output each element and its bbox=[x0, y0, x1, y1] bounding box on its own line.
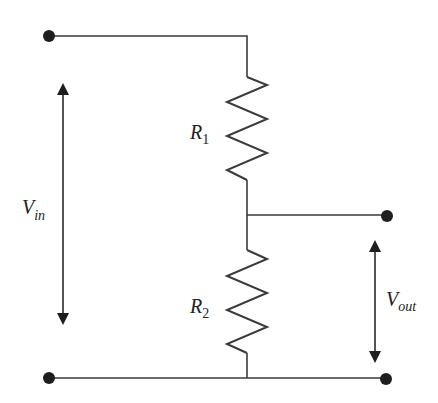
vin-arrow bbox=[57, 83, 69, 325]
terminal-top-left bbox=[43, 30, 55, 42]
terminal-bottom-left bbox=[43, 372, 55, 384]
arrow-down-icon bbox=[57, 313, 69, 325]
label-vin: Vin bbox=[22, 196, 45, 223]
label-r1: R1 bbox=[189, 121, 209, 147]
vout-arrow bbox=[369, 240, 381, 363]
terminal-output-top bbox=[381, 210, 393, 222]
resistor-r1 bbox=[227, 77, 267, 180]
arrow-up-icon bbox=[369, 240, 381, 252]
top-wire bbox=[49, 36, 247, 77]
label-r2: R2 bbox=[189, 295, 209, 321]
label-vout: Vout bbox=[386, 288, 417, 314]
terminal-output-bottom bbox=[380, 373, 392, 385]
arrow-down-icon bbox=[369, 351, 381, 363]
resistor-r2 bbox=[227, 250, 267, 353]
voltage-divider-diagram: R1 R2 Vin Vout bbox=[0, 0, 438, 403]
arrow-up-icon bbox=[57, 83, 69, 95]
